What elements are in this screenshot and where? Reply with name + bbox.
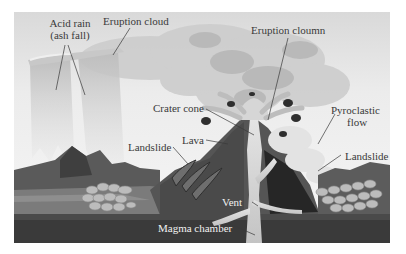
label-landslide-right: Landslide [345, 150, 388, 162]
label-acid-rain-line2: (ash fall) [30, 29, 110, 41]
label-pyroclastic-line1: Pyroclastic [331, 104, 401, 116]
label-acid-rain: Acid rain (ash fall) [30, 17, 110, 41]
label-vent: Vent [222, 196, 242, 208]
label-eruption-column: Eruption cloumn [251, 24, 325, 36]
label-eruption-cloud: Eruption cloud [103, 15, 169, 27]
label-landslide-left: Landslide [128, 141, 171, 153]
label-pyroclastic-line2: flow [331, 116, 401, 128]
label-pyroclastic-flow: Pyroclastic flow [331, 104, 401, 128]
volcano-diagram: Acid rain (ash fall) Eruption cloud Erup… [0, 0, 406, 254]
label-crater-cone: Crater cone [153, 102, 204, 114]
label-acid-rain-line1: Acid rain [30, 17, 110, 29]
label-magma-chamber: Magma chamber [158, 222, 232, 234]
label-lava: Lava [182, 134, 204, 146]
